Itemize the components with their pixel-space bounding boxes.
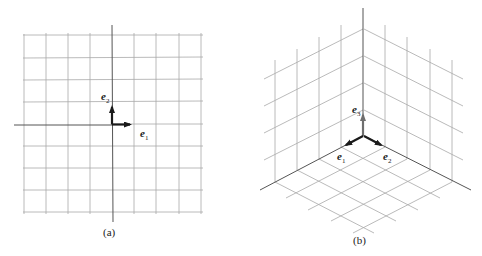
axes-3d [260, 8, 471, 190]
label-e3: e3 [352, 103, 361, 118]
left-wall-grid [264, 25, 363, 182]
caption-b: (b) [353, 234, 366, 247]
floor-grid [275, 147, 452, 233]
label-e1: e1 [140, 127, 149, 142]
vector-e2 [364, 136, 381, 145]
vector-e1 [346, 136, 363, 145]
basis-vectors-3d [346, 115, 381, 145]
right-wall-grid [364, 25, 463, 182]
basis-vectors-2d [112, 107, 130, 125]
label-e2: e2 [383, 150, 392, 165]
figure-canvas: e2 e1 (a) [0, 0, 482, 256]
label-e2: e2 [101, 90, 110, 105]
axes-2d [14, 25, 113, 222]
panel-a: e2 e1 (a) [14, 25, 203, 239]
label-e1: e1 [337, 150, 346, 165]
panel-b: e3 e1 e2 (b) [260, 8, 471, 247]
caption-a: (a) [103, 226, 116, 239]
